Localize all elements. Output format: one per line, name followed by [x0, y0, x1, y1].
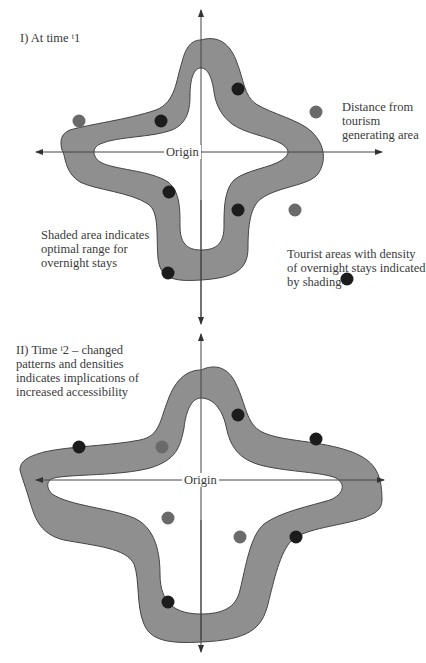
figure-2-title: II) Time t2 – changed patterns and densi…	[16, 343, 139, 399]
tourist-area-dot-dark	[290, 531, 303, 544]
tourist-area-dot-grey	[162, 512, 175, 525]
tourist-area-dot-grey	[156, 441, 169, 454]
tourist-area-dot-dark	[232, 204, 245, 217]
tourist-area-dot-dark	[155, 115, 168, 128]
tourist-area-dot-dark	[162, 267, 175, 280]
tourist-area-dot-grey	[73, 115, 86, 128]
distance-label: Distance from tourism generating area	[342, 100, 419, 142]
tourist-area-dot-dark	[163, 186, 176, 199]
shaded-area-label: Shaded area indicates optimal range for …	[41, 228, 149, 270]
tourist-area-dot-dark	[73, 441, 86, 454]
origin-label-1: Origin	[164, 145, 201, 159]
tourist-area-dot-grey	[234, 531, 247, 544]
tourist-area-dot-grey	[310, 106, 323, 119]
figure-1-title: I) At time t1	[20, 31, 80, 45]
tourist-area-dot-dark	[162, 596, 175, 609]
tourist-area-dot-dark	[232, 83, 245, 96]
tourist-area-dot-dark	[310, 433, 323, 446]
origin-label-2: Origin	[182, 473, 219, 487]
tourist-area-dot-dark	[232, 409, 245, 422]
tourist-areas-legend: Tourist areas with density of overnight …	[287, 247, 426, 289]
tourist-area-dot-grey	[289, 204, 302, 217]
